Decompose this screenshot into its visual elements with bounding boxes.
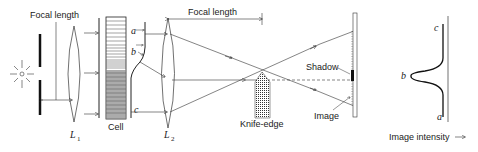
point-c-label: c bbox=[134, 104, 139, 115]
lens-l1 bbox=[68, 26, 80, 122]
screen bbox=[351, 13, 357, 117]
plot-a-label: a bbox=[437, 111, 442, 122]
cell-label: Cell bbox=[108, 122, 124, 132]
plot-b-label: b bbox=[401, 70, 406, 81]
lens-l2 bbox=[162, 18, 175, 128]
cell bbox=[106, 17, 126, 119]
intensity-plot: c b a bbox=[401, 16, 448, 122]
image-intensity-label: Image intensity bbox=[389, 132, 450, 142]
image-label: Image bbox=[314, 111, 339, 121]
light-source-icon bbox=[10, 60, 34, 88]
point-a-label: a bbox=[131, 25, 136, 36]
focal-length-2-label: Focal length bbox=[188, 7, 237, 17]
focal-length-1-label: Focal length bbox=[30, 10, 79, 20]
schlieren-diagram: Focal length L 1 Cell bbox=[0, 0, 478, 152]
knife-edge bbox=[255, 72, 270, 118]
lens-l1-label: L bbox=[69, 129, 76, 140]
shadow-label: Shadow bbox=[306, 62, 339, 72]
svg-text:1: 1 bbox=[77, 135, 81, 143]
lens-l2-label: L bbox=[163, 129, 170, 140]
plot-c-label: c bbox=[434, 22, 439, 33]
knife-edge-label: Knife-edge bbox=[240, 119, 284, 129]
svg-text:2: 2 bbox=[171, 135, 175, 143]
point-b-label: b bbox=[131, 46, 136, 57]
